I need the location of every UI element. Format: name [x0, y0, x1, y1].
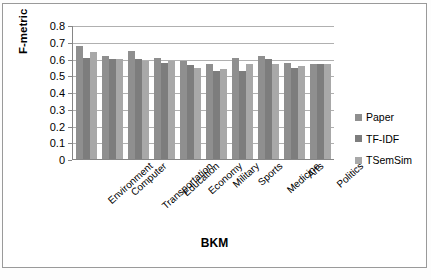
bar — [317, 64, 324, 159]
x-axis-title: BKM — [3, 236, 426, 250]
bar — [161, 63, 168, 159]
x-axis-line — [72, 159, 334, 160]
y-tick-label: 0 — [59, 155, 65, 166]
bar — [232, 58, 239, 159]
legend-swatch-icon — [355, 135, 362, 142]
x-tick-label: Sports — [256, 161, 284, 188]
legend-label: TSemSim — [366, 155, 412, 166]
bar — [239, 71, 246, 159]
y-tick-label: 0.1 — [50, 138, 65, 149]
bar — [258, 56, 265, 159]
bar — [109, 59, 116, 160]
bar — [265, 59, 272, 160]
y-tick-label: 0.8 — [50, 21, 65, 32]
legend-swatch-icon — [355, 114, 362, 121]
bar-group — [282, 26, 308, 159]
bar-group — [203, 26, 229, 159]
y-tick-label: 0.2 — [50, 121, 65, 132]
bar — [324, 64, 331, 159]
bar-group — [99, 26, 125, 159]
bar — [154, 58, 161, 159]
bar — [83, 58, 90, 159]
y-axis-title: F-metric — [17, 9, 29, 54]
bar — [272, 64, 279, 159]
chart-frame: F-metric 0.80.70.60.50.40.30.20.10 Envir… — [2, 3, 427, 268]
bar-group — [151, 26, 177, 159]
bar — [102, 56, 109, 159]
bar — [213, 71, 220, 159]
bar — [310, 64, 317, 159]
bar-group — [308, 26, 334, 159]
bar — [180, 61, 187, 159]
y-tick-label: 0.6 — [50, 54, 65, 65]
x-axis-labels: EnvironmentComputerTransportationEducati… — [72, 161, 334, 221]
bar — [206, 64, 213, 159]
legend-item: TSemSim — [355, 155, 429, 166]
legend-item: Paper — [355, 112, 429, 123]
bar — [194, 68, 201, 159]
bar — [246, 64, 253, 159]
bar — [116, 59, 123, 160]
bar-group — [125, 26, 151, 159]
bar — [168, 61, 175, 159]
bar — [291, 68, 298, 159]
bar — [90, 52, 97, 159]
bar-group — [177, 26, 203, 159]
y-tick-label: 0.7 — [50, 37, 65, 48]
legend-swatch-icon — [355, 157, 362, 164]
bar — [76, 46, 83, 159]
bar — [284, 63, 291, 159]
bar — [187, 65, 194, 159]
y-tick-label: 0.5 — [50, 71, 65, 82]
bar-group — [73, 26, 99, 159]
bar — [298, 66, 305, 159]
bar-groups — [73, 26, 334, 159]
chart-legend: PaperTF-IDFTSemSim — [355, 112, 429, 177]
chart-page: F-metric 0.80.70.60.50.40.30.20.10 Envir… — [0, 0, 431, 280]
legend-label: TF-IDF — [366, 134, 399, 145]
bar — [128, 51, 135, 159]
bar — [220, 69, 227, 159]
bar — [142, 61, 149, 159]
bar-group — [256, 26, 282, 159]
bar — [135, 59, 142, 160]
y-tick-label: 0.3 — [50, 104, 65, 115]
plot-area: 0.80.70.60.50.40.30.20.10 — [72, 26, 334, 160]
legend-label: Paper — [366, 112, 394, 123]
bar-group — [230, 26, 256, 159]
y-tick-label: 0.4 — [50, 88, 65, 99]
legend-item: TF-IDF — [355, 134, 429, 145]
